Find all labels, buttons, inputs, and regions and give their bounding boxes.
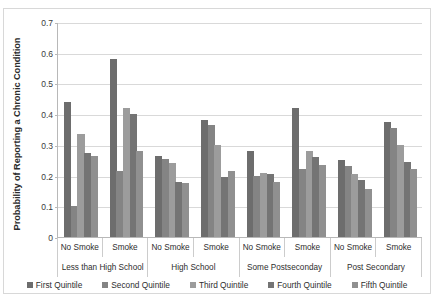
legend-label: Third Quintile — [199, 280, 248, 290]
legend-item: Fourth Quintile — [268, 280, 331, 290]
legend-swatch-icon — [27, 282, 33, 288]
bar — [319, 165, 326, 237]
y-axis-title: Probability of Reporting a Chronic Condi… — [6, 9, 28, 259]
chart-figure: Probability of Reporting a Chronic Condi… — [3, 8, 431, 294]
group-label: Some Postseconday — [240, 257, 331, 277]
y-axis-tick-label: 0.7 — [41, 18, 53, 28]
legend-item: Third Quintile — [190, 280, 248, 290]
y-axis-tick-label: 0.4 — [41, 110, 53, 120]
subgroup-label-smoke: Smoke — [285, 238, 331, 257]
legend-label: First Quintile — [36, 280, 83, 290]
y-axis-tick-label: 0.5 — [41, 79, 53, 89]
y-axis-tick-label: 0.3 — [41, 141, 53, 151]
plot-area: 00.10.20.30.40.50.60.7 — [57, 23, 422, 238]
legend-label: Fifth Quintile — [361, 280, 408, 290]
legend-label: Second Quintile — [111, 280, 170, 290]
group-axis-labels: Less than High SchoolHigh SchoolSome Pos… — [57, 257, 422, 277]
subgroup-label-no-smoke: No Smoke — [331, 238, 377, 257]
subgroup-label-no-smoke: No Smoke — [148, 238, 194, 257]
bar-series-container — [58, 23, 422, 237]
bar — [410, 169, 417, 237]
y-axis-title-text: Probability of Reporting a Chronic Condi… — [12, 38, 22, 231]
y-axis-tick-label: 0.1 — [41, 202, 53, 212]
bar — [136, 151, 143, 237]
legend-swatch-icon — [102, 282, 108, 288]
bar — [91, 156, 98, 237]
legend-swatch-icon — [190, 282, 196, 288]
y-axis-tick-label: 0 — [48, 233, 53, 243]
subgroup-label-smoke: Smoke — [103, 238, 149, 257]
y-axis-tick-label: 0.2 — [41, 172, 53, 182]
legend-swatch-icon — [352, 282, 358, 288]
subgroup-label-smoke: Smoke — [194, 238, 240, 257]
legend-swatch-icon — [268, 282, 274, 288]
chart-legend: First QuintileSecond QuintileThird Quint… — [4, 277, 430, 293]
group-label: Post Secondary — [331, 257, 422, 277]
group-label: Less than High School — [57, 257, 148, 277]
bar — [273, 182, 280, 237]
legend-label: Fourth Quintile — [277, 280, 331, 290]
bar — [365, 189, 372, 237]
bar — [228, 171, 235, 237]
group-label: High School — [148, 257, 239, 277]
subgroup-label-no-smoke: No Smoke — [240, 238, 286, 257]
y-axis-tick-label: 0.6 — [41, 49, 53, 59]
legend-item: Fifth Quintile — [352, 280, 408, 290]
legend-item: First Quintile — [27, 280, 83, 290]
subgroup-label-no-smoke: No Smoke — [57, 238, 103, 257]
legend-item: Second Quintile — [102, 280, 170, 290]
subgroup-axis-labels: No SmokeSmokeNo SmokeSmokeNo SmokeSmokeN… — [57, 238, 422, 257]
bar — [182, 183, 189, 237]
subgroup-label-smoke: Smoke — [376, 238, 422, 257]
